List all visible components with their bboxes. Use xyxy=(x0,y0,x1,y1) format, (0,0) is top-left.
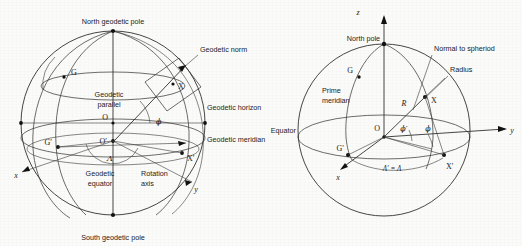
left-rotation-axis-label-line1: Rotation xyxy=(141,169,168,178)
left-greenwich-prime-point-label: G′ xyxy=(44,138,52,147)
right-geocentric-latitude-label: ϕ′ xyxy=(400,124,407,133)
left-west-limb-dot xyxy=(19,121,23,125)
right-longitude-equality-label: Λ′ = Λ xyxy=(382,165,402,173)
left-center-point-dot xyxy=(111,121,114,124)
right-prime-meridian-label-line2: meridian xyxy=(322,96,350,105)
right-geodetic-latitude-arc xyxy=(428,134,433,147)
left-latitude-angle-label: ϕ xyxy=(156,117,162,126)
left-geodetic-meridian-label: Geodetic meridian xyxy=(207,135,265,144)
left-oprime-to-xprime-line xyxy=(113,141,182,153)
left-geodetic-normal-label: Geodetic norm xyxy=(200,45,247,54)
right-x-axis-label: x xyxy=(335,173,340,182)
left-x-axis-arrowhead xyxy=(22,166,30,172)
right-greenwich-point-dot xyxy=(357,75,360,78)
left-greenwich-point-dot xyxy=(62,75,65,78)
left-station-point-dot xyxy=(171,82,174,85)
left-south-pole-label: South geodetic pole xyxy=(81,233,145,242)
left-east-limb-dot xyxy=(203,121,207,125)
right-z-axis-label: z xyxy=(355,8,360,17)
right-geodetic-latitude-label: ϕ xyxy=(425,124,431,133)
right-station-point-label: X xyxy=(431,96,437,105)
right-greenwich-prime-point-label: G′ xyxy=(336,144,344,153)
left-diagram-svg: North geodetic pole South geodetic pole … xyxy=(0,0,522,246)
right-center-to-gprime-line xyxy=(348,137,384,155)
left-rotation-axis-label-line2: axis xyxy=(141,179,154,188)
right-normal-label-leader xyxy=(413,55,432,110)
left-north-pole-label: North geodetic pole xyxy=(82,17,144,26)
right-center-point-label: O xyxy=(374,124,380,133)
right-prime-meridian-label-line1: Prime xyxy=(322,86,341,95)
right-equator-label: Equator xyxy=(271,126,297,135)
left-geodetic-equator-label-line2: equator xyxy=(88,179,113,188)
left-station-prime-point-label: X′ xyxy=(187,154,195,163)
left-y-axis-arrowhead xyxy=(185,180,192,186)
left-subcenter-point-label: O′ xyxy=(99,137,107,146)
right-normal-to-spheroid-label: Normal to spheriod xyxy=(434,44,495,53)
right-center-to-xprime-line xyxy=(384,137,444,155)
right-north-pole-dot xyxy=(382,42,386,46)
left-geodetic-normal-leader xyxy=(184,55,198,67)
left-geodetic-normal-ray xyxy=(115,65,186,140)
left-center-point-label: O xyxy=(102,113,108,122)
right-phi-prime-reference-line xyxy=(384,137,432,149)
right-station-prime-point-label: X′ xyxy=(446,162,454,171)
left-geodetic-horizon-label: Geodetic horizon xyxy=(207,103,261,112)
right-north-pole-label: North pole xyxy=(347,34,380,43)
right-radius-symbol-label: R xyxy=(401,99,407,108)
left-gprime-ray-arrowhead xyxy=(178,141,186,146)
left-geodetic-parallel-label-line2: parallel xyxy=(97,100,121,109)
left-panel-group: North geodetic pole South geodetic pole … xyxy=(13,17,265,242)
right-y-axis-arrowhead xyxy=(498,126,507,132)
right-radius-label: Radius xyxy=(450,65,473,74)
left-south-pole-dot xyxy=(111,213,115,217)
left-north-pole-dot xyxy=(111,29,115,33)
left-greenwich-point-label: G xyxy=(71,68,77,77)
left-longitude-angle-label: Λ xyxy=(106,154,113,163)
left-geodetic-equator-label-line1: Geodetic xyxy=(86,169,115,178)
right-z-axis-arrowhead xyxy=(381,15,387,24)
right-station-meridian-arc xyxy=(384,44,433,169)
left-geodetic-parallel-label-line1: Geodetic xyxy=(95,90,124,99)
left-outer-meridian-arc xyxy=(33,31,113,218)
left-station-point-label: X xyxy=(178,82,184,91)
right-panel-group: North pole Normal to spheriod Radius Pri… xyxy=(271,8,514,216)
figure-canvas: North geodetic pole South geodetic pole … xyxy=(0,0,522,246)
right-x-axis-line xyxy=(342,137,384,168)
right-y-axis-label: y xyxy=(509,126,514,135)
right-normal-extension-line xyxy=(425,78,445,97)
right-prime-meridian-arc xyxy=(346,44,384,160)
left-x-axis-label: x xyxy=(13,171,18,180)
right-greenwich-point-label: G xyxy=(347,66,353,75)
left-y-axis-label: y xyxy=(193,185,198,194)
